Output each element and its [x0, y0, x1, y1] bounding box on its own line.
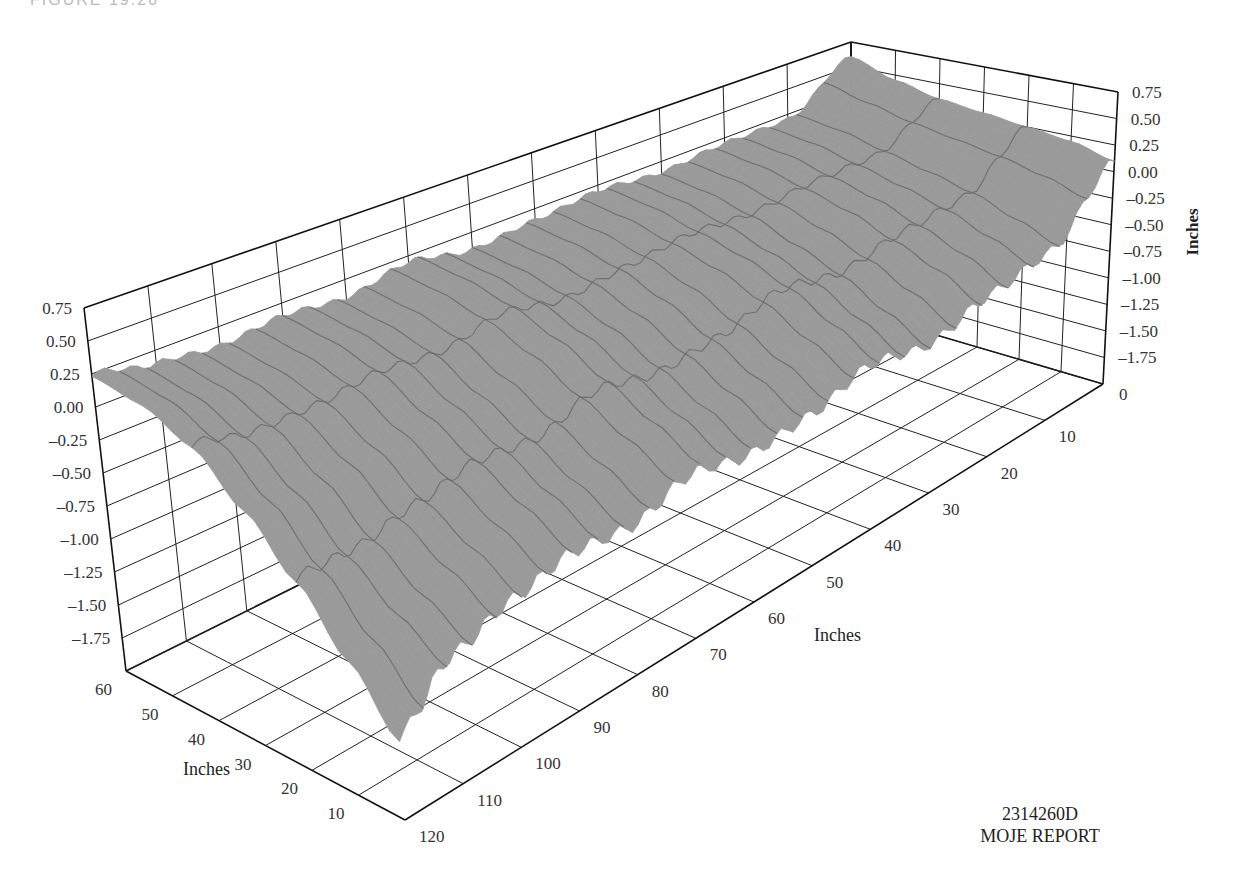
svg-text:20: 20: [1001, 464, 1018, 483]
svg-text:30: 30: [235, 755, 252, 774]
svg-text:–0.50: –0.50: [52, 464, 91, 483]
svg-text:60: 60: [768, 609, 785, 628]
svg-text:–1.50: –1.50: [67, 596, 106, 615]
svg-text:–1.50: –1.50: [1119, 322, 1158, 341]
svg-text:60: 60: [95, 680, 112, 699]
svg-text:–1.00: –1.00: [59, 530, 98, 549]
svg-text:Inches: Inches: [1183, 208, 1202, 256]
report-name: MOJE REPORT: [960, 825, 1120, 847]
svg-text:40: 40: [884, 536, 901, 555]
surface-plot: 0.750.750.500.500.250.250.000.00–0.25–0.…: [0, 0, 1252, 880]
svg-text:100: 100: [535, 754, 561, 773]
svg-text:10: 10: [328, 804, 345, 823]
svg-text:–0.75: –0.75: [56, 497, 95, 516]
svg-text:–1.25: –1.25: [1120, 295, 1159, 314]
svg-text:–1.25: –1.25: [63, 563, 102, 582]
svg-text:0.25: 0.25: [50, 365, 80, 384]
svg-text:0.75: 0.75: [1132, 83, 1162, 102]
svg-text:10: 10: [1059, 427, 1076, 446]
svg-text:0.50: 0.50: [1131, 110, 1161, 129]
svg-text:90: 90: [594, 718, 611, 737]
svg-text:–1.00: –1.00: [1121, 269, 1160, 288]
svg-text:50: 50: [142, 705, 159, 724]
svg-text:70: 70: [710, 645, 727, 664]
svg-text:20: 20: [281, 779, 298, 798]
svg-text:0.00: 0.00: [1128, 163, 1158, 182]
surface-mesh: [92, 57, 1115, 742]
svg-text:–1.75: –1.75: [71, 629, 110, 648]
report-label: 2314260D MOJE REPORT: [960, 803, 1120, 847]
svg-text:120: 120: [419, 827, 445, 846]
svg-text:–0.50: –0.50: [1124, 216, 1163, 235]
svg-text:–0.75: –0.75: [1123, 242, 1162, 261]
svg-text:80: 80: [652, 682, 669, 701]
report-code: 2314260D: [960, 803, 1120, 825]
svg-text:30: 30: [943, 500, 960, 519]
svg-text:110: 110: [477, 791, 502, 810]
svg-text:0: 0: [1119, 385, 1128, 404]
svg-text:0.25: 0.25: [1129, 136, 1159, 155]
svg-text:Inches: Inches: [183, 759, 230, 779]
svg-text:0.50: 0.50: [46, 332, 76, 351]
svg-text:0.00: 0.00: [54, 398, 84, 417]
svg-text:–0.25: –0.25: [1126, 189, 1165, 208]
svg-text:40: 40: [188, 730, 205, 749]
svg-text:–1.75: –1.75: [1117, 348, 1156, 367]
svg-text:50: 50: [826, 573, 843, 592]
svg-text:–0.25: –0.25: [48, 431, 87, 450]
svg-text:Inches: Inches: [814, 625, 861, 645]
svg-text:0.75: 0.75: [42, 299, 72, 318]
